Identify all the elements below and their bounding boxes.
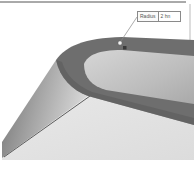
radius-handle-icon[interactable] [118, 41, 122, 45]
3d-model[interactable] [0, 0, 194, 170]
radius-dimension-input[interactable]: Radius 2 hn [137, 11, 181, 22]
radius-value[interactable]: 2 hn [159, 12, 180, 21]
radius-label: Radius [138, 12, 159, 21]
grip-point-icon[interactable] [123, 46, 127, 50]
model-viewport[interactable]: Radius 2 hn [0, 0, 194, 170]
